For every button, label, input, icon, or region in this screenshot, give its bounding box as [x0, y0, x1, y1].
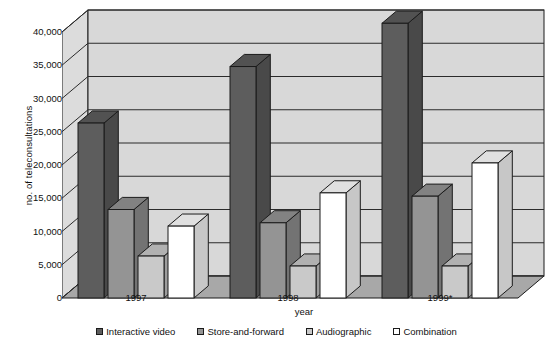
- bar-1998-combination: [320, 181, 360, 298]
- y-tick-label: 10,000: [16, 227, 62, 237]
- legend-swatch-icon: [197, 328, 204, 335]
- bar-chart: no. of teleconsultations 05,00010,00015,…: [0, 0, 553, 352]
- legend-item-audiographic[interactable]: Audiographic: [306, 326, 371, 337]
- legend-swatch-icon: [306, 328, 313, 335]
- y-tick-label: 35,000: [16, 60, 62, 70]
- legend-swatch-icon: [393, 328, 400, 335]
- x-tick-label: 1997: [91, 292, 181, 303]
- y-axis-tick-labels: 05,00010,00015,00020,00025,00030,00035,0…: [10, 0, 62, 352]
- legend-item-combination[interactable]: Combination: [393, 326, 456, 337]
- y-tick-label: 0: [16, 293, 62, 303]
- legend-label: Combination: [403, 326, 456, 337]
- y-tick-label: 15,000: [16, 193, 62, 203]
- legend-swatch-icon: [96, 328, 103, 335]
- legend-label: Audiographic: [316, 326, 371, 337]
- bar-1999-combination: [472, 151, 512, 298]
- y-tick-label: 20,000: [16, 160, 62, 170]
- legend-item-store-and-forward[interactable]: Store-and-forward: [197, 326, 284, 337]
- plot-area: [62, 8, 546, 300]
- y-tick-label: 30,000: [16, 94, 62, 104]
- bar-1997-combination: [168, 214, 208, 298]
- plot-svg: [62, 8, 546, 300]
- x-tick-label: 1998: [243, 292, 333, 303]
- y-tick-label: 40,000: [16, 27, 62, 37]
- x-tick-label: 1999*: [395, 292, 485, 303]
- y-tick-label: 25,000: [16, 127, 62, 137]
- y-tick-label: 5,000: [16, 260, 62, 270]
- legend-label: Store-and-forward: [207, 326, 284, 337]
- chart-legend: Interactive videoStore-and-forwardAudiog…: [0, 322, 553, 340]
- x-axis-title: year: [62, 306, 546, 317]
- legend-label: Interactive video: [106, 326, 175, 337]
- legend-item-interactive-video[interactable]: Interactive video: [96, 326, 175, 337]
